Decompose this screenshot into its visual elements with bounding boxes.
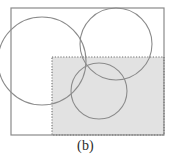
figure-caption: (b) — [0, 136, 171, 156]
figure-container: (b) — [0, 0, 171, 161]
